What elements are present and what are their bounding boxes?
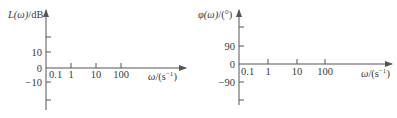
x-tick-label-0.1: 0.1 — [49, 69, 62, 80]
y-tick-label-minus90: −90 — [219, 77, 235, 88]
y-tick-label-minus10: −10 — [26, 77, 42, 88]
magnitude-plot: L(ω)/dB 10 0 −10 0.1 1 10 100 ω/(s−1) — [7, 9, 186, 110]
phase-x-label: ω/(s−1) — [361, 67, 390, 80]
x-tick-label-10: 10 — [292, 66, 303, 77]
magnitude-x-label: ω/(s−1) — [148, 70, 177, 83]
y-tick-label-0: 0 — [230, 59, 235, 70]
y-tick-label-10: 10 — [32, 47, 43, 58]
y-tick-label-0: 0 — [37, 63, 42, 74]
x-tick-label-1: 1 — [68, 69, 73, 80]
y-tick-label-90: 90 — [225, 41, 236, 52]
x-tick-label-10: 10 — [91, 69, 102, 80]
bode-plot-axes: L(ω)/dB 10 0 −10 0.1 1 10 100 ω/(s−1) φ(… — [0, 0, 397, 118]
phase-y-label: φ(ω)/(°) — [198, 9, 233, 21]
x-tick-label-100: 100 — [317, 66, 333, 77]
magnitude-y-label: L(ω)/dB — [7, 9, 43, 21]
x-tick-label-100: 100 — [113, 69, 129, 80]
x-tick-label-1: 1 — [265, 66, 270, 77]
x-tick-label-0.1: 0.1 — [241, 66, 254, 77]
phase-plot: φ(ω)/(°) 90 0 −90 0.1 1 10 100 ω/(s−1) — [198, 9, 392, 105]
